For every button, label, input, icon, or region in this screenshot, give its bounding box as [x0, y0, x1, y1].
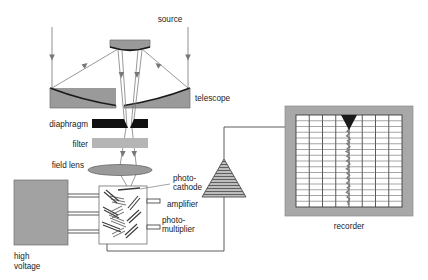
high-voltage-label-line1: high	[14, 252, 30, 261]
telescope-label: telescope	[195, 94, 230, 103]
high-voltage-label-line2: voltage	[14, 262, 41, 271]
recorder-component	[285, 106, 413, 216]
high-voltage-box	[14, 180, 68, 245]
photomultiplier-envelope	[99, 186, 147, 244]
field-lens-body	[88, 165, 152, 176]
telescope-secondary-mirror	[110, 40, 150, 50]
photomultiplier-label-line2: multiplier	[162, 225, 195, 234]
recorder-label: recorder	[334, 222, 365, 231]
field-lens-label: field lens	[52, 161, 84, 170]
amplifier-label: amplifier	[167, 200, 198, 209]
diaphragm-component	[92, 119, 148, 128]
filter-element	[92, 138, 148, 148]
source-label: source	[158, 15, 183, 24]
diaphragm-label: diaphragm	[49, 120, 88, 129]
photomultiplier-label-line1: photo-	[162, 216, 185, 225]
photocathode-label-line2: cathode	[173, 183, 203, 192]
diaphragm-blade-left	[92, 119, 128, 128]
filter-label: filter	[73, 140, 89, 149]
diagram-canvas: source telescope	[0, 0, 428, 280]
photocathode-label-line1: photo-	[173, 174, 196, 183]
photometer-diagram: source telescope	[0, 0, 428, 280]
field-lens-component	[88, 165, 152, 176]
